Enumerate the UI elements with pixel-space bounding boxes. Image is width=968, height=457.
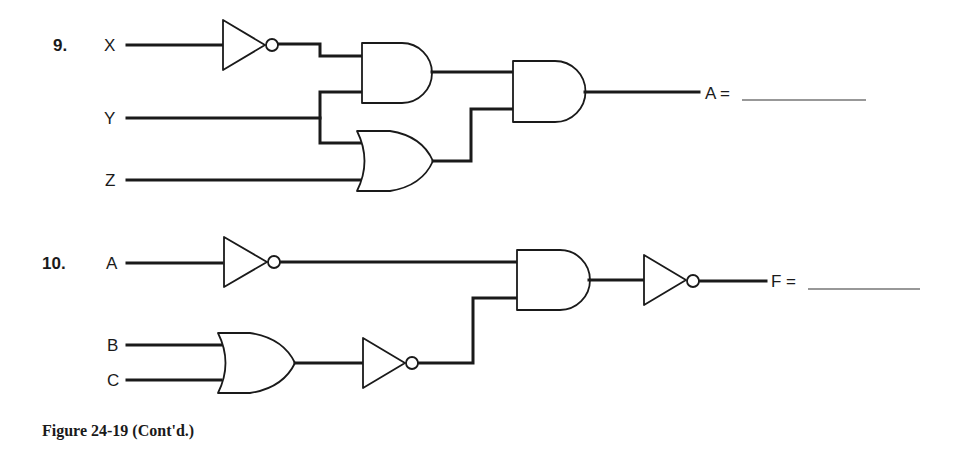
and-gate-1 (362, 43, 432, 103)
wire-y-branch (320, 92, 361, 143)
wire-or1-to-and2 (433, 109, 512, 161)
logic-circuit-diagram (0, 0, 968, 457)
not-bubble-x (266, 39, 278, 51)
wire-notor-to-and (419, 298, 516, 363)
problem-number-9: 9. (53, 37, 67, 54)
and-gate-3 (517, 250, 590, 310)
not-gate-output (644, 255, 686, 305)
input-label-a: A (106, 255, 117, 272)
not-gate-x (223, 20, 265, 70)
input-label-b: B (107, 337, 118, 354)
not-bubble-a (268, 256, 280, 268)
and-gate-2 (513, 61, 585, 122)
not-bubble-or (406, 357, 418, 369)
circuit-9 (127, 20, 866, 191)
input-label-y: Y (104, 110, 115, 127)
not-bubble-output (687, 275, 699, 287)
output-label-a: A = (705, 85, 730, 102)
output-label-f: F = (771, 273, 796, 290)
figure-caption: Figure 24-19 (Cont'd.) (42, 422, 194, 440)
or-gate-bc (218, 333, 295, 393)
input-label-c: C (107, 372, 119, 389)
input-label-x: X (104, 37, 115, 54)
or-gate-1 (357, 131, 433, 191)
problem-number-10: 10. (42, 255, 66, 272)
input-label-z: Z (105, 172, 115, 189)
circuit-10 (127, 237, 920, 393)
not-gate-or (363, 338, 405, 388)
wire-notx-to-and1 (279, 44, 361, 56)
not-gate-a (224, 237, 267, 287)
